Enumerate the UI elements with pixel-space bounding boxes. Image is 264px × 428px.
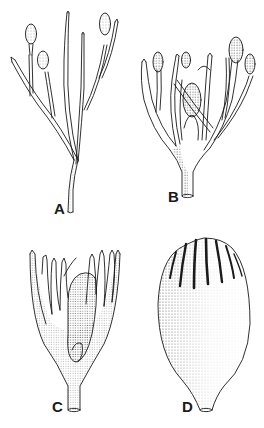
panel-label-c: C: [52, 399, 63, 414]
figure: A: [0, 0, 264, 428]
panel-c: C: [0, 214, 132, 428]
panel-b: B: [132, 0, 264, 214]
panel-c-illustration: [0, 214, 132, 428]
panel-label-b: B: [168, 189, 179, 204]
panel-d: D: [132, 214, 264, 428]
panel-d-illustration: [132, 214, 264, 428]
panel-b-illustration: [132, 0, 264, 214]
panel-a: A: [0, 0, 132, 214]
panel-label-d: D: [182, 399, 193, 414]
panel-a-illustration: [0, 0, 132, 214]
